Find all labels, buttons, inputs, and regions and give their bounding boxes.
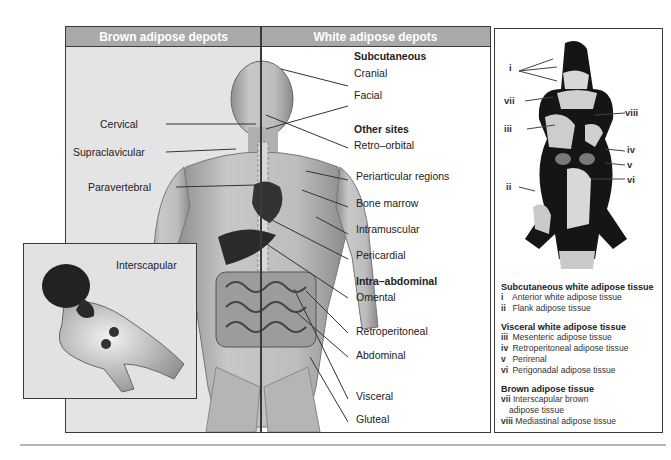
heading-other-sites: Other sites [354, 123, 409, 135]
marker-vii: vii [504, 95, 515, 106]
infant-inset: Interscapular [23, 243, 197, 399]
legend-item: iv Retroperitoneal adipose tissue [501, 343, 654, 354]
mouse-legend: Subcutaneous white adipose tissue i Ante… [501, 282, 654, 427]
brown-depots-header: Brown adipose depots [66, 27, 261, 47]
legend-item: vii Interscapular brown [501, 394, 654, 405]
label-facial: Facial [354, 89, 382, 101]
legend-heading-visceral: Visceral white adipose tissue [501, 322, 654, 332]
label-cervical: Cervical [100, 118, 138, 130]
label-cranial: Cranial [354, 67, 387, 79]
legend-item: viii Mediastinal adipose tissue [501, 416, 654, 427]
label-pericardial: Pericardial [356, 249, 406, 261]
label-retro-orbital: Retro–orbital [354, 139, 414, 151]
marker-viii: viii [625, 107, 638, 118]
bottom-divider [20, 444, 666, 446]
label-visceral: Visceral [356, 390, 393, 402]
heading-intra-abdominal: Intra–abdominal [356, 275, 437, 287]
heading-subcutaneous: Subcutaneous [354, 50, 426, 62]
legend-item: v Perirenal [501, 354, 654, 365]
panel-divider [260, 27, 262, 432]
label-intramuscular: Intramuscular [356, 223, 420, 235]
label-abdominal: Abdominal [356, 349, 406, 361]
label-periarticular: Periarticular regions [356, 170, 449, 182]
marker-vi: vi [627, 174, 635, 185]
marker-iv: iv [627, 144, 635, 155]
legend-heading-brown: Brown adipose tissue [501, 384, 654, 394]
label-gluteal: Gluteal [356, 413, 389, 425]
mouse-adipose-panel: i vii viii iii iv v vi ii Subcutaneous w… [494, 28, 663, 433]
marker-i: i [509, 62, 512, 73]
legend-item: ii Flank adipose tissue [501, 303, 654, 314]
legend-item-continuation: adipose tissue [501, 405, 654, 416]
legend-item: i Anterior white adipose tissue [501, 292, 654, 303]
label-interscapular: Interscapular [116, 259, 177, 271]
white-depots-header: White adipose depots [261, 27, 490, 47]
label-retroperitoneal: Retroperitoneal [356, 325, 428, 337]
marker-ii: ii [506, 181, 511, 192]
legend-item: vi Perigonadal adipose tissue [501, 365, 654, 376]
label-paravertebral: Paravertebral [88, 181, 151, 193]
legend-heading-subcutaneous: Subcutaneous white adipose tissue [501, 282, 654, 292]
marker-iii: iii [504, 123, 512, 134]
legend-item: iii Mesenteric adipose tissue [501, 332, 654, 343]
marker-v: v [627, 159, 632, 170]
label-bone-marrow: Bone marrow [356, 197, 418, 209]
label-supraclavicular: Supraclavicular [73, 146, 145, 158]
label-omental: Omental [356, 291, 396, 303]
